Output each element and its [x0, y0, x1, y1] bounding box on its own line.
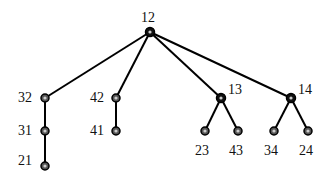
node-32	[41, 94, 49, 102]
edge-13-43	[221, 98, 238, 131]
node-label-41: 41	[90, 123, 104, 138]
node-label-34: 34	[264, 143, 278, 158]
node-inner-dot-icon	[306, 129, 309, 132]
node-label-42: 42	[90, 90, 104, 105]
edge-12-13	[150, 32, 221, 98]
tree-diagram: 123231214241132343143424	[0, 0, 330, 182]
node-inner-dot-icon	[203, 129, 206, 132]
node-13	[217, 94, 226, 103]
node-label-24: 24	[299, 143, 313, 158]
node-inner-dot-icon	[148, 30, 151, 33]
node-inner-dot-icon	[289, 96, 292, 99]
edge-12-14	[150, 32, 291, 98]
node-inner-dot-icon	[236, 129, 239, 132]
node-43	[234, 127, 242, 135]
node-inner-dot-icon	[114, 96, 117, 99]
node-12	[146, 28, 155, 37]
node-label-43: 43	[229, 143, 243, 158]
edge-14-24	[291, 98, 308, 131]
node-14	[287, 94, 296, 103]
node-label-13: 13	[228, 82, 242, 97]
node-41	[112, 127, 120, 135]
edge-14-34	[274, 98, 291, 131]
node-inner-dot-icon	[43, 96, 46, 99]
edge-12-32	[45, 32, 150, 98]
node-label-12: 12	[141, 10, 155, 25]
node-label-31: 31	[18, 123, 32, 138]
node-label-14: 14	[298, 82, 312, 97]
node-label-23: 23	[195, 143, 209, 158]
node-label-21: 21	[18, 153, 32, 168]
node-42	[112, 94, 120, 102]
node-21	[41, 162, 49, 170]
node-inner-dot-icon	[114, 129, 117, 132]
node-34	[270, 127, 278, 135]
node-inner-dot-icon	[219, 96, 222, 99]
node-31	[41, 127, 49, 135]
node-24	[304, 127, 312, 135]
labels-group: 123231214241132343143424	[18, 10, 313, 168]
node-label-32: 32	[18, 90, 32, 105]
node-inner-dot-icon	[43, 164, 46, 167]
edge-13-23	[205, 98, 221, 131]
node-inner-dot-icon	[272, 129, 275, 132]
node-23	[201, 127, 209, 135]
node-inner-dot-icon	[43, 129, 46, 132]
